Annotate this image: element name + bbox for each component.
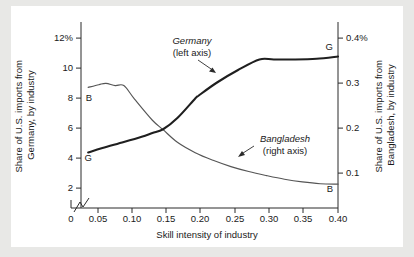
- germany-annotation-axis-note: (left axis): [173, 47, 212, 58]
- germany-annotation: Germany (left axis): [172, 35, 216, 73]
- right-tick-label-04: 0.4%: [346, 32, 368, 43]
- bangladesh-annotation-arrowhead: [238, 151, 245, 157]
- right-axis-title-line1: Share of U.S. imports from: [373, 60, 384, 173]
- bangladesh-annotation: Bangladesh (right axis): [238, 133, 310, 157]
- x-tick-label-035: 0.35: [294, 213, 313, 224]
- x-tick-label-010: 0.10: [123, 213, 142, 224]
- x-tick-label-015: 0.15: [157, 213, 176, 224]
- right-axis-title: Share of U.S. imports from Bangladesh, b…: [373, 57, 396, 172]
- left-tick-label-4: 4: [68, 152, 73, 163]
- x-axis-ticks: 0 0.05 0.10 0.15 0.20 0.25 0.30 0.35 0.4…: [68, 208, 347, 224]
- series-end-marker-germany: G: [326, 41, 333, 52]
- left-axis-title-line2: Germany, by industry: [25, 70, 36, 160]
- right-tick-label-02: 0.2: [346, 122, 359, 133]
- bangladesh-annotation-name: Bangladesh: [260, 133, 310, 144]
- x-axis-title: Skill intensity of industry: [156, 229, 258, 240]
- series-start-marker-germany: G: [85, 152, 92, 163]
- right-axis-title-line2: Bangladesh, by industry: [385, 64, 396, 166]
- left-tick-label-12: 12%: [54, 32, 74, 43]
- left-tick-label-6: 6: [68, 122, 73, 133]
- left-tick-label-2: 2: [68, 182, 73, 193]
- left-tick-label-10: 10: [62, 62, 73, 73]
- x-tick-label-025: 0.25: [226, 213, 245, 224]
- x-tick-label-040: 0.40: [329, 213, 348, 224]
- x-tick-label-005: 0.05: [89, 213, 108, 224]
- x-tick-label-0: 0: [68, 213, 73, 224]
- dual-axis-line-chart: 12% 10 8 6 4 2 0.4% 0.3 0.2 0.1 0: [0, 0, 414, 257]
- x-tick-label-020: 0.20: [191, 213, 210, 224]
- left-tick-label-8: 8: [68, 92, 73, 103]
- figure-root: 12% 10 8 6 4 2 0.4% 0.3 0.2 0.1 0: [0, 0, 414, 257]
- left-axis-title-line1: Share of U.S. imports from: [13, 60, 24, 173]
- series-start-marker-bangladesh: B: [86, 92, 92, 103]
- x-tick-label-030: 0.30: [260, 213, 279, 224]
- right-tick-label-03: 0.3: [346, 77, 359, 88]
- series-end-marker-bangladesh: B: [327, 183, 333, 194]
- left-axis-ticks: 12% 10 8 6 4 2: [54, 32, 81, 193]
- bangladesh-annotation-axis-note: (right axis): [263, 145, 307, 156]
- right-axis-ticks: 0.4% 0.3 0.2 0.1: [338, 32, 368, 178]
- right-tick-label-01: 0.1: [346, 167, 359, 178]
- left-axis-title: Share of U.S. imports from Germany, by i…: [13, 57, 36, 172]
- germany-annotation-name: Germany: [172, 35, 212, 46]
